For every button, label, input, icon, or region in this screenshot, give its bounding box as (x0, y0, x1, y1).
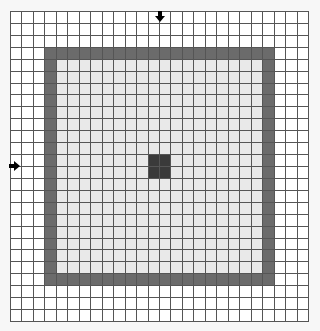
grid-cell-inner[interactable] (206, 84, 217, 96)
grid-cell-inner[interactable] (103, 143, 114, 155)
grid-cell-empty[interactable] (34, 179, 45, 191)
grid-cell-empty[interactable] (275, 274, 286, 286)
grid-cell-inner[interactable] (194, 72, 205, 84)
grid-cell-empty[interactable] (11, 310, 22, 322)
grid-cell-inner[interactable] (183, 191, 194, 203)
grid-cell-inner[interactable] (240, 262, 251, 274)
grid-cell-inner[interactable] (149, 95, 160, 107)
grid-cell-inner[interactable] (80, 131, 91, 143)
grid-cell-inner[interactable] (171, 84, 182, 96)
grid-cell-inner[interactable] (91, 203, 102, 215)
grid-cell-empty[interactable] (286, 203, 297, 215)
grid-cell-empty[interactable] (11, 12, 22, 24)
grid-cell-inner[interactable] (229, 250, 240, 262)
grid-cell-inner[interactable] (57, 155, 68, 167)
grid-cell-band[interactable] (45, 203, 56, 215)
grid-cell-inner[interactable] (194, 60, 205, 72)
grid-cell-empty[interactable] (286, 286, 297, 298)
grid-cell-inner[interactable] (68, 60, 79, 72)
grid-cell-inner[interactable] (137, 239, 148, 251)
grid-cell-empty[interactable] (137, 24, 148, 36)
grid-cell-inner[interactable] (160, 179, 171, 191)
grid-cell-inner[interactable] (171, 72, 182, 84)
grid-cell-inner[interactable] (137, 227, 148, 239)
grid-cell-empty[interactable] (34, 119, 45, 131)
grid-cell-band[interactable] (45, 250, 56, 262)
grid-cell-inner[interactable] (114, 250, 125, 262)
grid-cell-inner[interactable] (114, 107, 125, 119)
grid-cell-inner[interactable] (171, 191, 182, 203)
grid-cell-empty[interactable] (22, 310, 33, 322)
grid-cell-empty[interactable] (45, 36, 56, 48)
grid-cell-empty[interactable] (298, 227, 309, 239)
grid-cell-empty[interactable] (22, 107, 33, 119)
grid-cell-inner[interactable] (240, 179, 251, 191)
grid-cell-inner[interactable] (171, 119, 182, 131)
grid-cell-inner[interactable] (103, 155, 114, 167)
grid-cell-inner[interactable] (229, 227, 240, 239)
grid-cell-empty[interactable] (275, 48, 286, 60)
grid-cell-empty[interactable] (160, 36, 171, 48)
grid-cell-empty[interactable] (137, 36, 148, 48)
grid-cell-empty[interactable] (252, 310, 263, 322)
grid-cell-empty[interactable] (240, 298, 251, 310)
grid-cell-band[interactable] (57, 48, 68, 60)
grid-cell-empty[interactable] (286, 179, 297, 191)
grid-cell-empty[interactable] (183, 298, 194, 310)
grid-cell-band[interactable] (45, 191, 56, 203)
grid-cell-empty[interactable] (286, 191, 297, 203)
grid-cell-empty[interactable] (11, 286, 22, 298)
grid-cell-empty[interactable] (275, 262, 286, 274)
grid-cell-inner[interactable] (160, 227, 171, 239)
grid-cell-empty[interactable] (171, 36, 182, 48)
grid-cell-inner[interactable] (252, 203, 263, 215)
grid-cell-empty[interactable] (22, 95, 33, 107)
grid-cell-band[interactable] (240, 274, 251, 286)
grid-cell-inner[interactable] (126, 84, 137, 96)
grid-cell-empty[interactable] (252, 286, 263, 298)
grid-cell-empty[interactable] (11, 274, 22, 286)
grid-cell-empty[interactable] (160, 286, 171, 298)
grid-cell-band[interactable] (263, 167, 274, 179)
grid-cell-band[interactable] (252, 48, 263, 60)
grid-cell-empty[interactable] (22, 298, 33, 310)
grid-cell-inner[interactable] (114, 60, 125, 72)
grid-cell-center[interactable] (149, 167, 160, 179)
grid-cell-inner[interactable] (217, 215, 228, 227)
grid-cell-inner[interactable] (68, 179, 79, 191)
grid-cell-inner[interactable] (103, 95, 114, 107)
grid-cell-empty[interactable] (275, 143, 286, 155)
grid-cell-band[interactable] (45, 167, 56, 179)
grid-cell-empty[interactable] (286, 48, 297, 60)
grid-cell-inner[interactable] (206, 131, 217, 143)
grid-cell-inner[interactable] (57, 167, 68, 179)
grid-cell-band[interactable] (45, 72, 56, 84)
grid-cell-band[interactable] (45, 143, 56, 155)
grid-cell-empty[interactable] (34, 48, 45, 60)
grid-cell-empty[interactable] (91, 286, 102, 298)
grid-cell-inner[interactable] (194, 167, 205, 179)
grid-cell-empty[interactable] (91, 12, 102, 24)
grid-cell-empty[interactable] (275, 286, 286, 298)
grid-cell-empty[interactable] (11, 143, 22, 155)
grid-cell-inner[interactable] (114, 215, 125, 227)
grid-cell-inner[interactable] (57, 107, 68, 119)
grid-cell-inner[interactable] (137, 107, 148, 119)
grid-cell-inner[interactable] (126, 119, 137, 131)
grid-cell-inner[interactable] (160, 95, 171, 107)
grid-cell-inner[interactable] (68, 191, 79, 203)
grid-cell-empty[interactable] (22, 262, 33, 274)
grid-cell-empty[interactable] (275, 119, 286, 131)
grid-cell-inner[interactable] (240, 227, 251, 239)
grid-cell-empty[interactable] (22, 36, 33, 48)
grid-cell-inner[interactable] (103, 250, 114, 262)
grid-cell-empty[interactable] (194, 298, 205, 310)
grid-cell-inner[interactable] (57, 203, 68, 215)
grid-cell-inner[interactable] (160, 72, 171, 84)
grid-cell-inner[interactable] (171, 131, 182, 143)
grid-cell-inner[interactable] (149, 215, 160, 227)
grid-cell-empty[interactable] (57, 36, 68, 48)
grid-cell-empty[interactable] (275, 72, 286, 84)
grid-cell-band[interactable] (263, 60, 274, 72)
grid-cell-center[interactable] (160, 155, 171, 167)
